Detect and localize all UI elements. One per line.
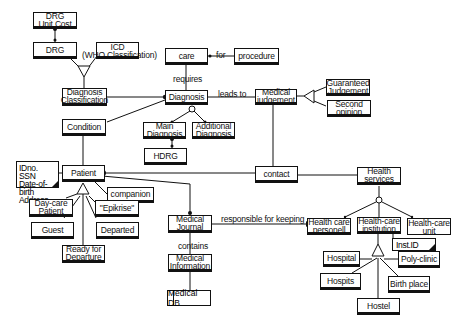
- class-hospits[interactable]: Hospits: [320, 273, 361, 290]
- class-label: Hostel: [367, 302, 390, 310]
- class-diagnosis[interactable]: Diagnosis: [165, 90, 208, 105]
- class-label: Ready for Departure: [66, 245, 102, 261]
- class-label: Second opinion: [335, 100, 363, 116]
- class-hdrg[interactable]: HDRG: [144, 148, 187, 165]
- patient-attributes: IDno. SSN Date-of-birth Address: [16, 161, 59, 188]
- assoc-contains: contains: [178, 241, 208, 251]
- assoc-requires: requires: [173, 74, 202, 84]
- class-additional-diagnosis[interactable]: Additional Diagnosis: [192, 122, 235, 139]
- class-label: Poly-clinic: [401, 255, 437, 263]
- inst-id-attribute: Inst.ID: [392, 238, 436, 251]
- class-label: Medical Information: [170, 254, 210, 270]
- class-diagnosis-classification[interactable]: Diagnosis Classification: [62, 88, 107, 106]
- class-medical-judgement[interactable]: Medical judgement: [255, 89, 297, 105]
- class-label: HDRG: [153, 152, 177, 160]
- class-health-care-institution[interactable]: Health-care institution: [357, 217, 401, 234]
- class-label: contact: [263, 170, 289, 178]
- class-label: Diagnosis: [169, 93, 205, 101]
- class-label: procedure: [238, 52, 274, 60]
- class-label: Additional Diagnosis: [196, 122, 232, 138]
- class-label: Hospits: [327, 277, 354, 285]
- class-label: Condition: [67, 123, 101, 131]
- class-epikrise[interactable]: "Epikrise": [95, 200, 139, 217]
- icd-subtitle: (WHO Classification): [82, 50, 157, 60]
- class-health-care-personell[interactable]: Health care personell: [307, 218, 351, 235]
- class-guaranteed-judgement[interactable]: Guaranteed Judgement: [326, 79, 370, 96]
- class-procedure[interactable]: procedure: [234, 48, 279, 65]
- class-medical-information[interactable]: Medical Information: [168, 254, 212, 272]
- class-label: care: [179, 52, 195, 60]
- class-ready-for-departure[interactable]: Ready for Departure: [62, 245, 105, 263]
- class-main-diagnosis[interactable]: Main Diagnosis: [143, 122, 186, 139]
- class-label: Patient: [71, 169, 96, 177]
- db-label: Medical DB: [168, 288, 210, 308]
- class-label: Diagnosis Classification: [61, 88, 108, 104]
- class-label: Main Diagnosis: [147, 122, 183, 138]
- class-label: Hospital: [327, 254, 356, 262]
- medical-db-store[interactable]: Medical DB: [167, 290, 211, 306]
- class-contact[interactable]: contact: [255, 166, 298, 183]
- class-care[interactable]: care: [165, 48, 208, 65]
- class-medical-journal[interactable]: Medical Journal: [168, 215, 212, 233]
- class-patient[interactable]: Patient: [62, 165, 105, 182]
- class-label: Birth place: [390, 280, 428, 288]
- class-drg[interactable]: DRG: [33, 42, 77, 59]
- class-label: Guest: [42, 226, 64, 234]
- class-label: Health services: [364, 167, 394, 183]
- class-birth-place[interactable]: Birth place: [388, 276, 430, 293]
- diagram-canvas: DRG Unit Cost DRG ICD (WHO Classificatio…: [0, 0, 463, 325]
- class-label: Departed: [101, 226, 134, 234]
- class-label: Medical Journal: [176, 215, 204, 231]
- class-departed[interactable]: Departed: [96, 222, 139, 239]
- class-label: Health-care institution: [358, 217, 400, 233]
- class-health-services[interactable]: Health services: [357, 167, 401, 185]
- class-label: DRG Unit Cost: [38, 12, 71, 28]
- class-label: Health-care unit: [408, 219, 450, 235]
- class-label: companion: [111, 190, 151, 198]
- class-day-care-patient[interactable]: Day-care Patient: [29, 199, 73, 217]
- assoc-leads-to: leads to: [218, 89, 246, 99]
- class-label: "Epikrise": [100, 204, 134, 212]
- class-hostel[interactable]: Hostel: [357, 298, 400, 315]
- assoc-for: for: [216, 50, 225, 60]
- class-label: Guaranteed Judgement: [327, 79, 370, 95]
- class-hospital[interactable]: Hospital: [323, 251, 360, 267]
- assoc-responsible-for-keeping: responsible for keeping: [221, 214, 304, 224]
- class-label: Medical judgement: [257, 88, 295, 104]
- class-label: DRG: [46, 46, 64, 54]
- class-guest[interactable]: Guest: [31, 222, 74, 239]
- class-drg-unit-cost[interactable]: DRG Unit Cost: [33, 12, 77, 29]
- class-label: Health care personell: [308, 218, 349, 234]
- class-label: Day-care Patient: [35, 199, 68, 215]
- class-condition[interactable]: Condition: [62, 119, 106, 136]
- class-poly-clinic[interactable]: Poly-clinic: [398, 251, 440, 268]
- class-health-care-unit[interactable]: Health-care unit: [407, 218, 451, 235]
- class-second-opinion[interactable]: Second opinion: [327, 100, 371, 117]
